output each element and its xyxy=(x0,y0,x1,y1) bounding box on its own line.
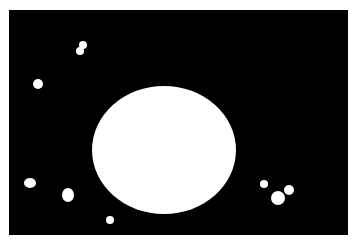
blob-top-b xyxy=(76,47,84,55)
blob-right-b xyxy=(284,185,294,195)
mask-image xyxy=(9,10,348,235)
image-frame xyxy=(0,0,355,244)
blob-left xyxy=(33,79,43,89)
large-disc xyxy=(92,86,236,214)
blob-bottom-left xyxy=(24,178,36,188)
blob-right-small xyxy=(260,180,268,188)
blob-bottom-mid xyxy=(62,188,74,202)
blob-right-a xyxy=(271,191,285,205)
blob-bottom-small xyxy=(106,216,114,224)
